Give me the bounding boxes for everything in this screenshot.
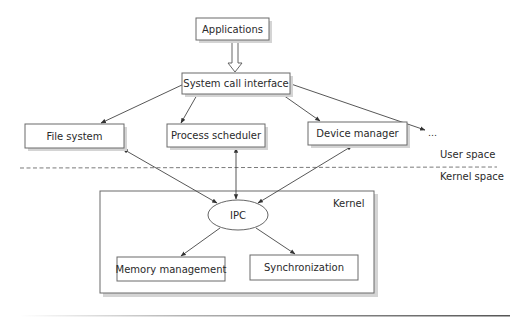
user-kernel-divider (20, 167, 497, 168)
more-modules-ellipsis: ... (428, 127, 437, 138)
edge-sci-to-process-scheduler (181, 95, 197, 123)
node-device-manager: Device manager (308, 122, 410, 148)
file-system-label: File system (46, 131, 102, 142)
system-call-interface-label: System call interface (183, 78, 288, 89)
applications-to-sci-arrow (228, 41, 242, 72)
synchronization-label: Synchronization (264, 262, 344, 273)
edge-sci-to-file-system (101, 84, 184, 123)
edge-sci-to-device-manager (283, 95, 320, 121)
node-system-call-interface: System call interface (182, 73, 293, 97)
user-space-label: User space (440, 149, 495, 160)
bottom-rule (20, 315, 510, 317)
ipc-label: IPC (230, 210, 246, 221)
process-scheduler-label: Process scheduler (171, 130, 262, 141)
node-ipc: IPC (208, 200, 268, 230)
node-process-scheduler: Process scheduler (167, 124, 268, 150)
applications-label: Applications (202, 24, 263, 35)
memory-management-label: Memory management (116, 264, 227, 275)
node-applications: Applications (196, 18, 272, 43)
node-file-system: File system (25, 124, 127, 151)
kernel-space-label: Kernel space (440, 171, 504, 182)
device-manager-label: Device manager (316, 128, 399, 139)
os-architecture-diagram: Kernel User space Kernel space Applicati… (0, 0, 517, 318)
node-synchronization: Synchronization (250, 255, 358, 280)
kernel-label: Kernel (333, 198, 364, 209)
node-memory-management: Memory management (116, 257, 227, 281)
